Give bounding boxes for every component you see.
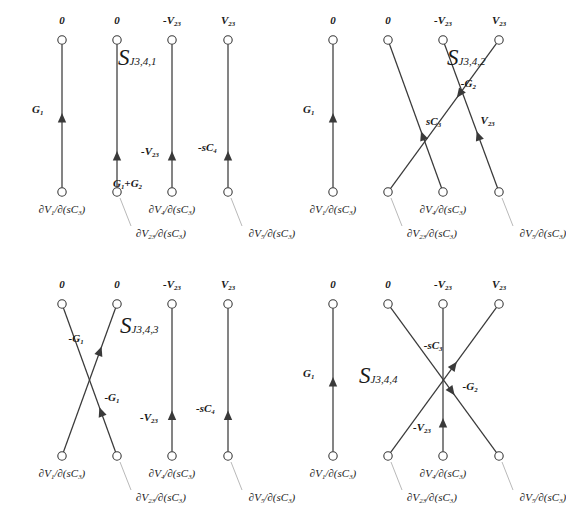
leader-line-2 [120,462,131,490]
panel-graph [271,264,542,527]
bottom-label-3: ∂V4/∂(sC3) [149,204,195,217]
s-subscript: J3,4,4 [371,373,398,385]
branch-1-cross-up-label: -G1 [69,333,84,346]
panel-title-2: SJ3,4,2 [447,46,485,69]
panel-graph [0,0,271,263]
node-top-label-2: 0 [114,15,120,26]
node-top-1 [329,300,337,308]
node-top-label-2: 0 [385,15,391,26]
branch-4-vertical-label: -sC4 [196,403,215,416]
bottom-label-3: ∂V4/∂(sC3) [149,468,195,481]
branch-4-vertical-label: -sC4 [198,142,217,155]
bottom-label-2: ∂V23/∂(sC3) [407,228,457,241]
panel-title-3: SJ3,4,3 [120,314,158,337]
s-main: S [359,363,371,388]
branch-1-vertical-arrowhead [329,377,337,387]
node-top-label-1: 0 [330,279,336,290]
node-bottom-4 [224,188,232,196]
node-top-label-4: V23 [221,15,235,28]
bottom-label-2: ∂V23/∂(sC3) [407,492,457,505]
branch-2-cross-up-arrowhead [420,131,428,141]
node-bottom-4 [495,188,503,196]
node-top-2 [384,36,392,44]
s-main: S [447,45,459,70]
leader-line-4 [502,198,513,226]
branch-2-cross-up-label: -G1 [104,392,119,405]
node-top-4 [224,36,232,44]
bottom-label-1: ∂V1/∂(sC3) [39,204,85,217]
node-bottom-1 [58,452,66,460]
node-bottom-3 [439,188,447,196]
node-top-4 [495,36,503,44]
node-top-3 [439,36,447,44]
node-top-label-1: 0 [59,279,65,290]
node-bottom-3 [439,452,447,460]
node-top-label-1: 0 [330,15,336,26]
panel-title-4: SJ3,4,4 [359,364,397,387]
branch-3-cross-down-label: -G2 [461,78,476,91]
branch-1-vertical-arrowhead [329,113,337,123]
branch-3-vertical-label: -V23 [141,146,159,159]
node-bottom-4 [224,452,232,460]
node-bottom-1 [329,188,337,196]
branch-1-vertical-label: G1 [32,104,43,117]
s-subscript: J3,4,3 [132,323,159,335]
branch-2-vertical-arrowhead [113,151,121,161]
panel-j3-4-2: G1sC3-G2V2300-V23V23∂V1/∂(sC3)∂V23/∂(sC3… [271,0,542,263]
node-top-1 [58,36,66,44]
panel-graph [0,264,271,527]
s-main: S [118,45,130,70]
node-bottom-2 [384,452,392,460]
branch-2-cross-up-arrowhead [99,407,107,417]
node-top-2 [113,300,121,308]
node-top-4 [224,300,232,308]
branch-4-cross-up-label: V23 [481,115,495,128]
branch-3-vertical-arrowhead [168,410,176,420]
bottom-label-2: ∂V23/∂(sC3) [136,492,186,505]
bottom-label-2: ∂V23/∂(sC3) [136,228,186,241]
node-top-label-4: V23 [221,279,235,292]
branch-1-cross-up-arrowhead [94,347,102,357]
node-bottom-4 [495,452,503,460]
leader-line-4 [231,198,242,226]
bottom-label-1: ∂V1/∂(sC3) [39,468,85,481]
node-top-label-1: 0 [59,15,65,26]
node-top-3 [168,300,176,308]
node-top-label-2: 0 [385,279,391,290]
panel-j3-4-1: G1G1+G2-V23-sC400-V23V23∂V1/∂(sC3)∂V23/∂… [0,0,271,263]
node-top-3 [439,300,447,308]
leader-line-4 [231,462,242,490]
panel-j3-4-4: G1-sC3-V23-G200-V23V23∂V1/∂(sC3)∂V23/∂(s… [271,264,542,527]
node-bottom-1 [329,452,337,460]
node-top-2 [113,36,121,44]
leader-line-2 [391,198,402,226]
s-main: S [120,313,132,338]
branch-4-cross-down-label: -G2 [463,381,478,394]
branch-2-vertical-label: G1+G2 [113,178,142,191]
node-bottom-3 [168,188,176,196]
node-top-1 [329,36,337,44]
panel-j3-4-3: -G1-G1-V23-sC400-V23V23∂V1/∂(sC3)∂V23/∂(… [0,264,271,527]
node-bottom-3 [168,452,176,460]
branch-3-vertical-label: -V23 [413,422,431,435]
node-top-label-3: -V23 [434,15,452,28]
node-top-2 [384,300,392,308]
bottom-label-3: ∂V4/∂(sC3) [420,204,466,217]
node-top-3 [168,36,176,44]
node-top-label-3: -V23 [163,279,181,292]
branch-4-cross-up-arrowhead [476,131,484,141]
branch-2-cross-up-label: sC3 [426,116,441,129]
s-subscript: J3,4,2 [459,55,486,67]
branch-3-vertical-arrowhead [439,418,447,428]
bottom-label-1: ∂V1/∂(sC3) [310,468,356,481]
s-subscript: J3,4,1 [130,55,157,67]
leader-line-4 [502,462,513,490]
panel-title-1: SJ3,4,1 [118,46,156,69]
node-top-4 [495,300,503,308]
branch-2-cross-up-arrowhead [448,362,457,372]
node-top-label-2: 0 [114,279,120,290]
branch-4-vertical-arrowhead [224,151,232,161]
bottom-label-4: ∂V5/∂(sC3) [520,228,566,241]
leader-line-2 [391,462,402,490]
